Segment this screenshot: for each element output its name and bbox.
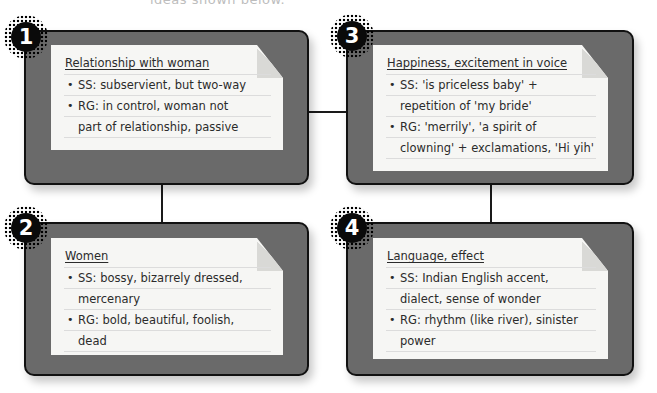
topic-box-2: Women •SS: bossy, bizarrely dressed, mer… xyxy=(24,222,309,376)
bullet-icon: • xyxy=(67,310,74,330)
bullet-icon: • xyxy=(389,310,396,330)
note-line: •RG: rhythm (like river), sinister xyxy=(386,310,596,331)
bullet-icon: • xyxy=(389,75,396,95)
bullet-icon: • xyxy=(67,268,74,288)
bullet-icon: • xyxy=(389,117,396,137)
number-label: 3 xyxy=(337,21,367,51)
number-label: 4 xyxy=(337,213,367,243)
note-line: clowning' + exclamations, 'Hi yih' xyxy=(386,138,596,159)
bullet-icon: • xyxy=(67,96,74,116)
note-line: •RG: 'merrily', 'a spirit of xyxy=(386,117,596,138)
connector-3-to-4 xyxy=(490,183,492,223)
connector-1-to-3 xyxy=(307,111,347,113)
number-badge-1: 1 xyxy=(4,15,48,59)
note-title: Relationship with woman xyxy=(64,54,271,75)
note-line: power xyxy=(386,331,596,352)
number-badge-4: 4 xyxy=(330,206,374,250)
bullet-icon: • xyxy=(389,268,396,288)
note-line: •SS: bossy, bizarrely dressed, xyxy=(64,268,271,289)
number-badge-3: 3 xyxy=(330,14,374,58)
note-title: Language, effect xyxy=(386,247,596,268)
note-line: dead xyxy=(64,331,271,352)
topic-box-3: Happiness, excitement in voice •SS: 'is … xyxy=(346,30,634,185)
cropped-caption-text: ideas shown below. xyxy=(150,0,320,6)
number-label: 2 xyxy=(11,213,41,243)
note-line: repetition of 'my bride' xyxy=(386,96,596,117)
note-paper: Women •SS: bossy, bizarrely dressed, mer… xyxy=(51,238,283,355)
note-line: •RG: in control, woman not xyxy=(64,96,271,117)
note-paper: Language, effect •SS: Indian English acc… xyxy=(373,238,608,359)
note-line: •SS: 'is priceless baby' + xyxy=(386,75,596,96)
note-line: part of relationship, passive xyxy=(64,117,271,138)
note-line: dialect, sense of wonder xyxy=(386,289,596,310)
connector-1-to-2 xyxy=(161,183,163,223)
topic-box-4: Language, effect •SS: Indian English acc… xyxy=(346,222,634,376)
note-line: mercenary xyxy=(64,289,271,310)
note-title: Women xyxy=(64,247,271,268)
note-line: •RG: bold, beautiful, foolish, xyxy=(64,310,271,331)
note-title: Happiness, excitement in voice xyxy=(386,54,596,75)
bullet-icon: • xyxy=(67,75,74,95)
note-paper: Happiness, excitement in voice •SS: 'is … xyxy=(373,45,608,171)
note-line: •SS: Indian English accent, xyxy=(386,268,596,289)
topic-box-1: Relationship with woman •SS: subservient… xyxy=(24,30,309,185)
number-label: 1 xyxy=(11,22,41,52)
number-badge-2: 2 xyxy=(4,206,48,250)
note-paper: Relationship with woman •SS: subservient… xyxy=(51,45,283,150)
note-line: •SS: subservient, but two-way xyxy=(64,75,271,96)
